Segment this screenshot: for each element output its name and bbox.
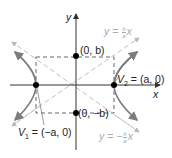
asymptote-upper-tail — [12, 85, 76, 128]
v1-label: V1 = (−a, 0) — [18, 127, 72, 140]
point-0-b-label: (0, b) — [80, 45, 105, 56]
y-axis-label: y — [66, 12, 71, 23]
hyperbola-diagram: y x (0, b) (0, −b) V2 = (a, 0) V1 = (−a,… — [0, 0, 172, 158]
asymptote-lower-label: y = −bax — [99, 131, 133, 144]
point-0-b — [73, 53, 79, 59]
v1-leader-line — [37, 88, 44, 125]
x-axis-label: x — [153, 89, 158, 100]
v2-label: V2 = (a, 0) — [117, 74, 164, 87]
asymptote-lower-end-arrow — [112, 113, 139, 132]
point-0-neg-b-label: (0, −b) — [78, 108, 109, 119]
point-v1 — [33, 82, 39, 88]
asymptote-upper-label: y = bax — [104, 26, 132, 39]
